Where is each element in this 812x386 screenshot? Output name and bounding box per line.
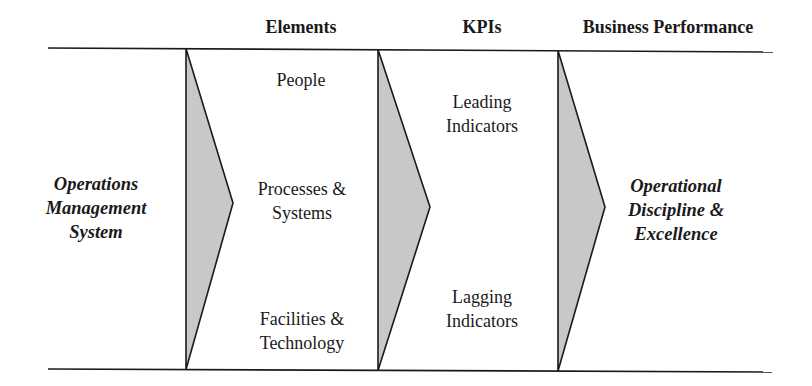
- outcome-line: Excellence: [628, 222, 724, 246]
- element-line: Processes &: [258, 177, 347, 201]
- header-kpis: KPIs: [462, 17, 501, 37]
- header-business-performance: Business Performance: [583, 17, 753, 37]
- source-line: Management: [46, 196, 147, 220]
- kpi-leading-indicators: Leading Indicators: [446, 90, 518, 138]
- chevron-arrow-2: [378, 50, 430, 371]
- element-people: People: [277, 68, 326, 92]
- chevron-arrow-3: [558, 51, 605, 372]
- chevron-arrow-1: [186, 49, 233, 370]
- element-line: Technology: [260, 331, 345, 355]
- kpi-line: Leading: [446, 90, 518, 114]
- source-operations-management-system: Operations Management System: [46, 172, 147, 244]
- kpi-line: Indicators: [446, 114, 518, 138]
- element-line: Systems: [258, 201, 347, 225]
- element-line: Facilities &: [260, 307, 345, 331]
- outcome-line: Discipline &: [628, 198, 724, 222]
- source-line: System: [46, 220, 147, 244]
- top-rule: [48, 48, 773, 52]
- element-line: People: [277, 68, 326, 92]
- element-processes-systems: Processes & Systems: [258, 177, 347, 225]
- bottom-rule: [48, 369, 772, 372]
- outcome-line: Operational: [628, 174, 724, 198]
- kpi-line: Indicators: [446, 309, 518, 333]
- outcome-operational-discipline-excellence: Operational Discipline & Excellence: [628, 174, 724, 246]
- kpi-line: Lagging: [446, 285, 518, 309]
- header-elements: Elements: [266, 17, 337, 37]
- kpi-lagging-indicators: Lagging Indicators: [446, 285, 518, 333]
- element-facilities-technology: Facilities & Technology: [260, 307, 345, 355]
- source-line: Operations: [46, 172, 147, 196]
